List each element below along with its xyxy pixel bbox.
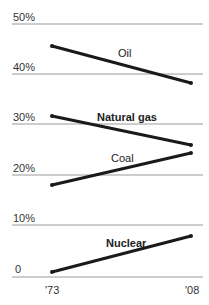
data-point [50,44,54,48]
series-label-natural-gas: Natural gas [97,111,157,123]
series-coal: Coal [50,151,193,187]
y-tick-label: 0 [15,263,21,275]
x-tick-label: '73 [45,284,59,296]
y-tick-label: 40% [13,61,35,73]
y-axis-labels: 50% 40% 30% 20% 10% 0 [13,11,35,275]
data-point [189,151,193,155]
series-natural-gas: Natural gas [50,111,193,147]
x-axis-labels: '73 '08 [45,284,199,296]
y-tick-label: 10% [13,212,35,224]
data-point [189,234,193,238]
series-label-coal: Coal [111,152,134,164]
data-point [189,143,193,147]
y-tick-label: 50% [13,11,35,23]
data-point [189,81,193,85]
data-point [50,270,54,274]
series-label-oil: Oil [118,47,131,59]
y-tick-label: 30% [13,111,35,123]
series-nuclear: Nuclear [50,234,193,274]
chart-svg: 50% 40% 30% 20% 10% 0 '73 '08 Oil Natura… [0,0,209,305]
series-label-nuclear: Nuclear [106,237,147,249]
data-point [50,183,54,187]
x-tick-label: '08 [185,284,199,296]
energy-share-line-chart: 50% 40% 30% 20% 10% 0 '73 '08 Oil Natura… [0,0,209,305]
series-oil: Oil [50,44,193,85]
y-tick-label: 20% [13,162,35,174]
data-point [50,114,54,118]
